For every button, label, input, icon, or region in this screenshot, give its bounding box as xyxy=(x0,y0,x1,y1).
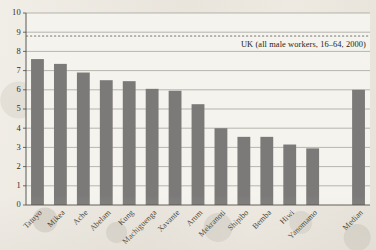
bar xyxy=(77,73,90,205)
y-tick-label: 0 xyxy=(17,199,21,209)
x-tick-label: Median xyxy=(341,208,365,232)
y-tick-label: 1 xyxy=(17,180,21,190)
y-axis-tick-labels: 012345678910 xyxy=(12,7,21,209)
x-tick-label: Abelam xyxy=(88,208,113,233)
y-tick-label: 9 xyxy=(17,27,21,37)
bar xyxy=(306,148,319,205)
y-tick-label: 4 xyxy=(17,123,22,133)
bar xyxy=(283,145,296,205)
x-tick-label: Bemba xyxy=(250,208,273,231)
y-tick-label: 2 xyxy=(17,161,21,171)
bar xyxy=(123,81,136,205)
bar xyxy=(237,137,250,205)
bar xyxy=(146,89,159,205)
bar xyxy=(260,137,273,205)
x-tick-label: Xavante xyxy=(156,208,182,234)
bar xyxy=(54,64,67,205)
bar xyxy=(215,128,228,205)
x-axis-tick-labels: TatuyoMikeaAcheAbelamKungMachiguengaXava… xyxy=(21,208,364,246)
x-tick-label: Hiwi xyxy=(278,208,296,226)
x-tick-label: Ache xyxy=(71,208,90,227)
bar xyxy=(192,104,205,205)
y-tick-label: 3 xyxy=(17,142,21,152)
x-tick-label: Mikea xyxy=(46,208,67,229)
bar xyxy=(352,90,365,205)
y-tick-label: 5 xyxy=(17,103,21,113)
annotation-labels: UK (all male workers, 16–64, 2000) xyxy=(241,40,366,49)
y-tick-label: 10 xyxy=(12,7,21,17)
bar xyxy=(169,91,182,205)
bar xyxy=(100,80,113,205)
y-tick-label: 7 xyxy=(17,65,21,75)
x-tick-label: Shipibo xyxy=(226,208,250,232)
bar-chart: 012345678910 TatuyoMikeaAcheAbelamKungMa… xyxy=(0,0,376,250)
uk-reference-label: UK (all male workers, 16–64, 2000) xyxy=(241,40,366,49)
x-tick-label: Tatuyo xyxy=(21,208,43,230)
bar xyxy=(31,59,44,205)
y-tick-label: 6 xyxy=(17,84,21,94)
y-tick-label: 8 xyxy=(17,46,21,56)
x-tick-label: Kung xyxy=(116,208,135,227)
x-tick-label: Arum xyxy=(185,208,205,228)
